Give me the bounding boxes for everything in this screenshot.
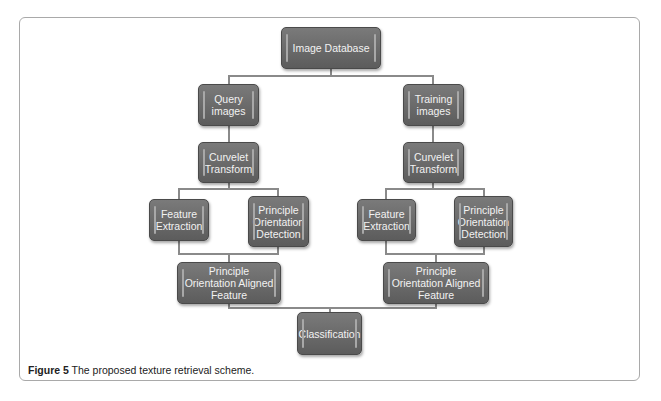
node-image-database: Image Database (281, 27, 381, 69)
connector (277, 188, 279, 196)
node-classification: Classification (297, 312, 362, 355)
node-principle-orientation-aligned-feature-right: Principle Orientation Aligned Feature (383, 262, 489, 304)
connector (228, 75, 230, 84)
connector (432, 125, 434, 142)
connector (385, 188, 485, 190)
connector (228, 253, 230, 262)
connector (435, 253, 437, 262)
node-feature-extraction-left: Feature Extraction (149, 199, 209, 241)
node-principle-orientation-detection-left: Principle Orientation Detection (248, 196, 309, 247)
connector (178, 188, 180, 199)
node-principle-orientation-aligned-feature-left: Principle Orientation Aligned Feature (177, 262, 281, 304)
connector (228, 307, 437, 309)
connector (228, 75, 434, 77)
connector (432, 75, 434, 84)
connector (228, 125, 230, 142)
connector (178, 188, 279, 190)
node-curvelet-transform-left: Curvelet Transform (198, 142, 259, 183)
figure-caption: Figure 5 The proposed texture retrieval … (28, 364, 254, 376)
node-feature-extraction-right: Feature Extraction (357, 199, 416, 241)
node-query-images: Query images (198, 84, 259, 126)
node-principle-orientation-detection-right: Principle Orientation Detection (454, 196, 513, 247)
node-curvelet-transform-right: Curvelet Transform (403, 142, 464, 183)
node-training-images: Training images (403, 84, 464, 126)
connector (385, 188, 387, 199)
connector (483, 188, 485, 196)
figure-caption-text: The proposed texture retrieval scheme. (69, 364, 254, 376)
figure-label: Figure 5 (28, 364, 69, 376)
